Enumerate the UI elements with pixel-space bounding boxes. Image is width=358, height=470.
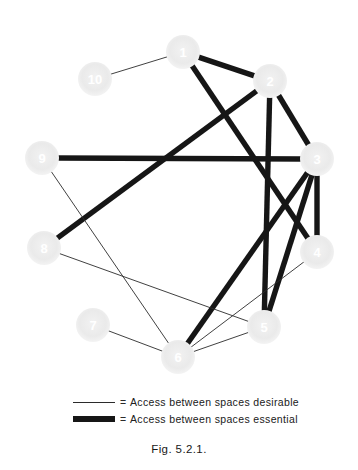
- bubble-diagram: 12345678910: [0, 0, 358, 400]
- figure-container: 12345678910 = Access between spaces desi…: [0, 0, 358, 470]
- node-9[interactable]: 9: [25, 141, 59, 175]
- edge-2-8: [55, 89, 258, 239]
- node-label-9: 9: [38, 151, 45, 166]
- node-7[interactable]: 7: [76, 308, 110, 342]
- node-label-4: 4: [313, 245, 321, 260]
- node-label-7: 7: [89, 318, 96, 333]
- node-label-5: 5: [260, 320, 267, 335]
- node-label-1: 1: [179, 45, 186, 60]
- edge-4-6: [189, 260, 306, 348]
- node-label-3: 3: [313, 152, 320, 167]
- edge-1-2: [196, 56, 256, 76]
- edge-6-7: [106, 330, 165, 352]
- node-1[interactable]: 1: [166, 35, 200, 69]
- thick-line-icon: [72, 416, 116, 422]
- node-label-8: 8: [40, 241, 47, 256]
- legend-label-desirable: Access between spaces desirable: [130, 396, 299, 408]
- figure-caption: Fig. 5.2.1.: [0, 443, 358, 455]
- edge-layer: [50, 56, 317, 352]
- legend-label-essential: Access between spaces essential: [130, 413, 298, 425]
- legend-equals-desirable: =: [116, 396, 130, 408]
- thin-line-icon: [72, 402, 116, 403]
- edge-5-6: [191, 332, 251, 353]
- node-10[interactable]: 10: [78, 62, 112, 96]
- edge-10-1: [108, 56, 169, 75]
- legend-row-desirable: = Access between spaces desirable: [0, 396, 358, 408]
- node-5[interactable]: 5: [247, 310, 281, 344]
- node-label-10: 10: [88, 72, 102, 87]
- edge-3-9: [56, 158, 303, 159]
- edge-1-4: [191, 64, 309, 241]
- edge-2-5: [264, 95, 269, 313]
- node-3[interactable]: 3: [300, 142, 334, 176]
- legend-row-essential: = Access between spaces essential: [0, 413, 358, 425]
- legend: = Access between spaces desirable = Acce…: [0, 396, 358, 430]
- edge-3-6: [186, 170, 309, 345]
- node-label-2: 2: [266, 74, 273, 89]
- node-6[interactable]: 6: [161, 340, 195, 374]
- node-label-6: 6: [174, 350, 181, 365]
- edge-2-3: [277, 93, 310, 147]
- node-2[interactable]: 2: [253, 64, 287, 98]
- legend-equals-essential: =: [116, 413, 130, 425]
- node-8[interactable]: 8: [27, 231, 61, 265]
- node-4[interactable]: 4: [300, 235, 334, 269]
